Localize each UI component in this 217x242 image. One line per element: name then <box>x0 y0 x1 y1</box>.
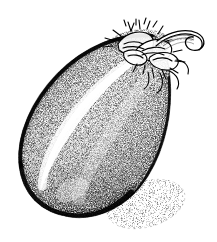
eggplant-illustration <box>0 0 217 242</box>
illustration-canvas: Eggplant (aubergine) stipple engraving <box>0 0 217 242</box>
